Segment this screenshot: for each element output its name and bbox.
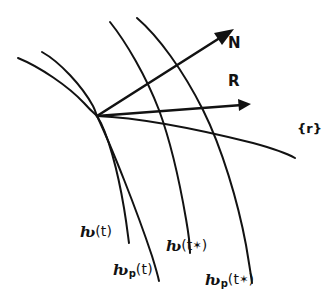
script-s-glyph: ƕ bbox=[113, 261, 128, 279]
paren-close: ) bbox=[147, 261, 153, 277]
arg-t: t bbox=[187, 237, 193, 253]
figure-container: N R {r} ƕ(t) ƕp(t) ƕ(t✶) ƕp(t✶) bbox=[0, 0, 336, 307]
vector-r-shaft bbox=[97, 105, 242, 116]
label-curve-s-of-t: ƕ(t) bbox=[80, 224, 112, 239]
label-curve-sp-of-t-star: ƕp(t✶) bbox=[205, 272, 254, 289]
subscript-p: p bbox=[128, 268, 136, 279]
vector-r-arrowhead bbox=[238, 99, 251, 111]
label-ray-set: {r} bbox=[297, 122, 322, 135]
vector-n-shaft bbox=[97, 34, 226, 116]
label-curve-s-of-t-star: ƕ(t✶) bbox=[166, 238, 207, 253]
label-curve-sp-of-t: ƕp(t) bbox=[113, 262, 153, 279]
label-vector-r: R bbox=[228, 74, 240, 89]
paren-close: ) bbox=[202, 237, 208, 253]
curve-s-of-t-star bbox=[110, 22, 190, 253]
star-icon: ✶ bbox=[193, 239, 202, 252]
label-vector-n: N bbox=[228, 36, 241, 51]
figure-canvas bbox=[0, 0, 336, 307]
script-s-glyph: ƕ bbox=[205, 271, 220, 289]
ray-curve bbox=[97, 116, 295, 158]
paren-close: ) bbox=[107, 223, 113, 239]
subscript-p: p bbox=[220, 278, 228, 289]
script-s-glyph: ƕ bbox=[166, 237, 181, 255]
paren-close: ) bbox=[248, 271, 254, 287]
script-s-glyph: ƕ bbox=[80, 223, 95, 241]
star-icon: ✶ bbox=[239, 273, 248, 286]
